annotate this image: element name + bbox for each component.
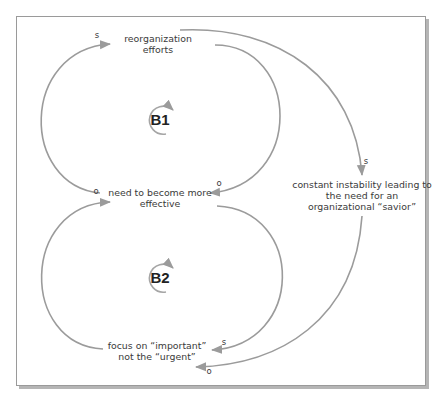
loop-b2: B2 <box>149 264 173 292</box>
variable-reorganization-efforts: reorganization efforts <box>124 33 192 55</box>
variable-label-line: need to become more <box>108 187 212 198</box>
polarity-label-o: o <box>216 178 221 188</box>
link-reorganization-to-need <box>210 45 280 193</box>
loop-label: B2 <box>150 269 169 286</box>
variable-label-line: the need for an <box>326 190 398 201</box>
polarity-label-o: o <box>206 366 211 376</box>
polarity-label-s: s <box>222 337 227 347</box>
variable-label-line: organizational “savior” <box>308 201 416 212</box>
variable-label-line: effective <box>140 198 181 209</box>
variable-label-line: constant instability leading to <box>292 179 432 190</box>
polarity-label-o: o <box>93 186 98 196</box>
loop-label: B1 <box>150 111 169 128</box>
variable-label-line: efforts <box>143 44 173 55</box>
loop-b1: B1 <box>149 106 173 134</box>
variable-label-line: not the “urgent” <box>118 351 196 362</box>
causal-loop-diagram: s o s o s o reorganization efforts need … <box>0 0 448 404</box>
variable-need-to-become-more-effective: need to become more effective <box>108 187 212 209</box>
link-focus-to-need <box>42 202 110 349</box>
variable-constant-instability: constant instability leading to the need… <box>292 179 432 212</box>
variable-label-line: focus on “important” <box>108 340 207 351</box>
link-need-to-focus <box>212 206 282 350</box>
variable-focus-on-important: focus on “important” not the “urgent” <box>108 340 207 362</box>
variable-label-line: reorganization <box>124 33 192 44</box>
polarity-label-s: s <box>364 156 369 166</box>
polarity-label-s: s <box>95 30 100 40</box>
link-need-to-reorganization <box>41 44 110 193</box>
